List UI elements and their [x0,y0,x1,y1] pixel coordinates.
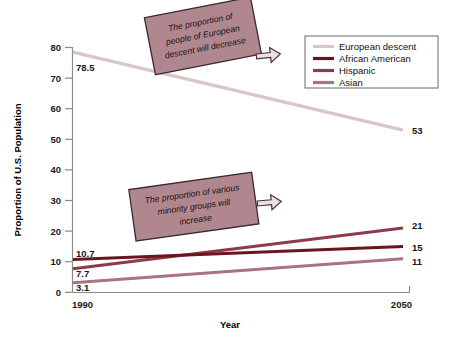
legend-label-asian: Asian [339,77,363,88]
chart-legend[interactable]: European descent African American Hispan… [305,36,438,88]
y-tick-label-30: 30 [50,195,61,206]
x-axis-title: Year [220,319,240,330]
legend-label-hispanic: Hispanic [339,65,376,76]
start-label-asian: 3.1 [76,282,90,293]
start-value-labels: 78.5 10.7 7.7 3.1 [76,62,95,293]
callout-european-descent: The proportion of people of European des… [144,0,261,75]
end-label-african-american: 15 [412,242,423,253]
end-label-hispanic: 21 [412,220,423,231]
y-tick-label-50: 50 [50,134,61,145]
callout-minority-arrow-icon [257,194,282,211]
end-label-asian: 11 [412,256,423,267]
x-tick-labels: 1990 2050 [72,299,412,310]
y-tick-label-10: 10 [50,256,61,267]
end-label-european-descent: 53 [412,125,423,136]
end-value-labels: 53 21 15 11 [412,125,423,267]
y-tick-label-60: 60 [50,103,61,114]
population-projection-line-chart: 80 70 60 50 40 30 20 10 0 1990 2050 Year… [0,0,456,342]
y-tick-labels: 80 70 60 50 40 30 20 10 0 [50,42,61,298]
start-label-european-descent: 78.5 [76,62,95,73]
y-axis-ticks [65,48,72,293]
y-tick-label-0: 0 [56,287,61,298]
y-tick-label-80: 80 [50,42,61,53]
y-tick-label-70: 70 [50,73,61,84]
x-tick-label-2050: 2050 [391,299,412,310]
legend-label-african-american: African American [339,53,411,64]
x-tick-label-1990: 1990 [72,299,93,310]
chart-figure: 80 70 60 50 40 30 20 10 0 1990 2050 Year… [0,0,456,342]
start-label-african-american: 10.7 [76,248,95,259]
start-label-hispanic: 7.7 [76,268,89,279]
y-tick-label-40: 40 [50,164,61,175]
y-axis-title: Proportion of U.S. Population [12,103,23,236]
y-tick-label-20: 20 [50,226,61,237]
callout-minority-groups: The proportion of various minority group… [129,172,259,241]
legend-label-european-descent: European descent [339,41,416,52]
